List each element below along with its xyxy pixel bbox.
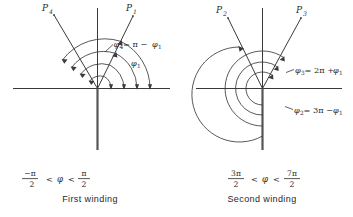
panel-first-winding: P 4 P 1 φ 4 = π − φ 1 φ 1 −π 2 < (13, 3, 170, 204)
ray-endpoint-p1 (132, 15, 134, 17)
label-p1-base: P (125, 3, 133, 13)
annotation-phi2-sub2: 1 (339, 110, 343, 116)
annotation-phi2: φ 2 = 3π − φ 1 (294, 105, 343, 116)
range-left-denominator: 2 (30, 180, 35, 189)
label-p4: P 4 (41, 3, 53, 15)
ray-p2 (228, 18, 263, 89)
label-p3: P 3 (295, 5, 307, 17)
range-relation-1: < (46, 174, 53, 184)
label-p3-sub: 3 (303, 10, 307, 17)
range-right-panel-right-numerator: 7π (287, 169, 297, 178)
label-p1-sub: 1 (133, 8, 137, 15)
label-p4-base: P (41, 3, 49, 13)
label-p1: P 1 (125, 3, 137, 15)
ray-endpoint-p3 (300, 17, 302, 19)
annotation-phi2-rest: = 3π − (304, 105, 334, 115)
annotation-phi1: φ 1 (131, 58, 141, 69)
range-variable: φ (57, 174, 63, 184)
arc-phi2-outer (192, 47, 263, 142)
range-right-numerator: π (82, 169, 87, 178)
arrowhead-phi3-outer (280, 56, 285, 61)
annotation-phi4-sub2: 1 (158, 44, 162, 50)
leader-phi2 (285, 107, 293, 110)
ray-endpoint-p4 (53, 14, 55, 16)
winding-angle-figure: P 4 P 1 φ 4 = π − φ 1 φ 1 −π 2 < (0, 0, 353, 217)
range-right-panel-relation-2: < (273, 174, 280, 184)
label-p3-base: P (295, 5, 303, 15)
leader-phi3 (286, 70, 294, 73)
range-right-panel-left-denominator: 2 (234, 180, 239, 189)
annotation-phi4-rest: = π − (123, 39, 147, 49)
range-expression-left: −π 2 < φ < π 2 (22, 169, 90, 189)
range-left-numerator: −π (24, 169, 35, 178)
label-p2-base: P (215, 5, 223, 15)
label-p4-sub: 4 (48, 8, 53, 15)
annotation-phi3-rest: = 2π + (305, 65, 335, 75)
arrowhead-phi4-mid (71, 67, 77, 72)
leader-phi4 (105, 45, 113, 53)
annotation-phi3: φ 3 = 2π + φ 1 (295, 65, 343, 76)
label-p2-sub: 2 (222, 10, 227, 17)
arc-phi4-outer (63, 39, 121, 60)
arrowhead-phi2-outer (238, 46, 244, 52)
ray-endpoint-p2 (227, 17, 229, 19)
caption-first-winding: First winding (62, 194, 118, 204)
range-relation-2: < (68, 174, 75, 184)
range-right-panel-variable: φ (262, 174, 268, 184)
label-p2: P 2 (215, 5, 227, 17)
arrowhead-phi4-outer (62, 59, 68, 64)
annotation-phi1-sub: 1 (137, 63, 141, 69)
range-right-panel-left-numerator: 3π (231, 169, 241, 178)
range-expression-right: 3π 2 < φ < 7π 2 (228, 169, 300, 189)
range-right-denominator: 2 (82, 180, 87, 189)
annotation-phi3-sub2: 1 (339, 70, 343, 76)
caption-second-winding: Second winding (227, 194, 296, 204)
range-right-panel-right-denominator: 2 (290, 180, 295, 189)
ray-p4 (54, 15, 98, 89)
ray-p1 (98, 16, 134, 89)
ray-p3 (263, 18, 302, 89)
range-right-panel-relation-1: < (251, 174, 258, 184)
panel-second-winding: P 2 P 3 φ 3 = 2π + φ 1 φ 2 = 3π − φ 1 (192, 5, 343, 204)
arrowhead-phi4-inner (80, 74, 86, 79)
